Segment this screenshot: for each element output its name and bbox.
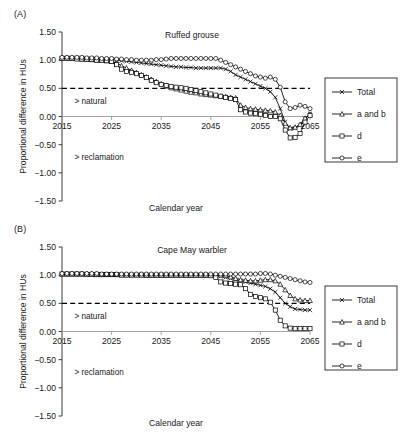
circle-icon [95, 271, 99, 275]
legend-label-a-and-b[interactable]: a and b [357, 109, 386, 119]
annotation-reclamation: > reclamation [74, 153, 124, 162]
triangle-icon [243, 105, 248, 110]
circle-icon [124, 58, 128, 62]
legend-label-e[interactable]: e [357, 153, 362, 163]
y-tick-label: 0.50 [39, 298, 56, 308]
circle-icon [169, 272, 173, 276]
legend-label-total[interactable]: Total [357, 87, 375, 97]
legend-label-e[interactable]: e [357, 361, 362, 371]
circle-icon [308, 280, 312, 284]
square-icon [224, 95, 228, 99]
circle-icon [204, 56, 208, 60]
circle-icon [199, 272, 203, 276]
legend-label-a-and-b[interactable]: a and b [357, 317, 386, 327]
x-tick-label: 2015 [52, 121, 71, 131]
square-icon [144, 76, 148, 80]
square-icon [179, 86, 183, 90]
circle-icon [149, 272, 153, 276]
square-icon [248, 111, 252, 115]
x-axis-label: Calendar year [149, 418, 203, 428]
circle-icon [248, 272, 252, 276]
square-icon [258, 296, 262, 300]
circle-icon [243, 272, 247, 276]
triangle-icon [293, 296, 298, 301]
circle-icon [154, 58, 158, 62]
square-icon [278, 117, 282, 121]
circle-icon [189, 56, 193, 60]
legend-label-d[interactable]: d [357, 339, 362, 349]
y-tick-label: −0.50 [34, 140, 56, 150]
circle-icon [258, 271, 262, 275]
square-icon [253, 112, 257, 116]
circle-icon [124, 272, 128, 276]
square-icon [278, 318, 282, 322]
square-icon [303, 327, 307, 331]
circle-icon [293, 278, 297, 282]
series-path [62, 274, 310, 310]
x-tick-label: 2035 [152, 121, 171, 131]
circle-icon [105, 272, 109, 276]
circle-icon [258, 75, 262, 79]
circle-icon [248, 72, 252, 76]
square-icon [340, 342, 344, 346]
circle-icon [239, 272, 243, 276]
circle-icon [288, 107, 292, 111]
square-icon [263, 297, 267, 301]
y-tick-label: −1.00 [34, 168, 56, 178]
y-tick-label: 1.00 [39, 270, 56, 280]
square-icon [219, 94, 223, 98]
x-icon [268, 90, 272, 94]
annotation-natural: > natural [74, 97, 106, 106]
x-icon [248, 80, 252, 84]
annotation-natural: > natural [74, 312, 106, 321]
triangle-icon [283, 121, 288, 126]
circle-icon [90, 56, 94, 60]
square-icon [293, 327, 297, 331]
circle-icon [340, 156, 344, 160]
legend: Totala and bde [325, 78, 397, 163]
square-icon [253, 295, 257, 299]
series-total [60, 272, 312, 312]
square-icon [189, 87, 193, 91]
circle-icon [199, 56, 203, 60]
series-path [62, 274, 310, 300]
circle-icon [105, 56, 109, 60]
x-tick-label: 2045 [201, 121, 220, 131]
triangle-icon [278, 282, 283, 287]
circle-icon [154, 272, 158, 276]
square-icon [119, 67, 123, 71]
square-icon [224, 281, 228, 285]
legend-label-d[interactable]: d [357, 131, 362, 141]
circle-icon [239, 67, 243, 71]
circle-icon [60, 271, 64, 275]
square-icon [268, 300, 272, 304]
circle-icon [293, 105, 297, 109]
legend-label-total[interactable]: Total [357, 295, 375, 305]
x-axis-label: Calendar year [149, 203, 203, 213]
square-icon [308, 113, 312, 117]
square-icon [124, 69, 128, 73]
circle-icon [70, 271, 74, 275]
square-icon [174, 85, 178, 89]
x-icon [243, 77, 247, 81]
circle-icon [194, 272, 198, 276]
circle-icon [179, 56, 183, 60]
circle-icon [110, 56, 114, 60]
circle-icon [110, 272, 114, 276]
circle-icon [219, 58, 223, 62]
square-icon [258, 112, 262, 116]
circle-icon [65, 271, 69, 275]
square-icon [288, 136, 292, 140]
circle-icon [134, 272, 138, 276]
circle-icon [283, 275, 287, 279]
circle-icon [234, 65, 238, 69]
y-tick-label: 1.50 [39, 27, 56, 37]
circle-icon [134, 58, 138, 62]
circle-icon [70, 55, 74, 59]
circle-icon [194, 56, 198, 60]
x-icon [268, 287, 272, 291]
circle-icon [214, 56, 218, 60]
legend: Totala and bde [325, 286, 397, 371]
x-icon [229, 69, 233, 73]
square-icon [199, 90, 203, 94]
